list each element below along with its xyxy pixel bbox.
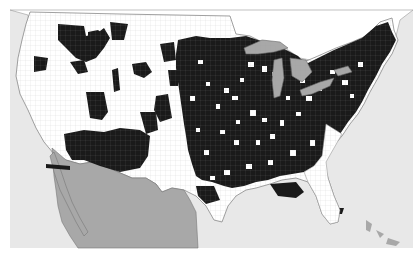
us-county-map [0,0,413,256]
left-margin [0,0,10,256]
bottom-margin [0,248,413,256]
top-margin [0,0,413,10]
